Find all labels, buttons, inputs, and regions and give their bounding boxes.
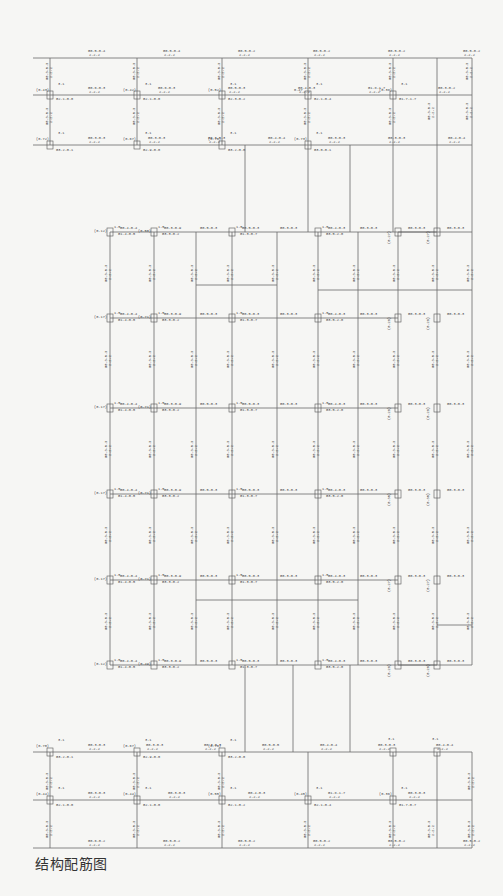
annotation-label: 2-2-2 [471,777,475,788]
annotation-label: (0.71) [138,577,151,581]
annotation-label: 3.1 [401,786,407,790]
annotation-label: G2.1-0.0 [56,803,73,807]
annotation-label: G2.1-0.0 [143,803,160,807]
annotation-label: 2-2-2 [470,269,474,280]
annotation-label: 2-2-2 [431,107,435,118]
annotation-label: (0.30) [426,493,430,506]
annotation-label: G0.5-0.3 [242,312,259,316]
annotation-label: G2.9-0.0 [143,148,160,152]
annotation-label: G1.4-0.5 [118,494,135,498]
annotation-label: 2-2-2 [389,843,400,847]
annotation-label: G1.3-0.7 [240,580,257,584]
annotation-label: 2-2-2 [108,355,112,366]
annotation-label: 2-2-2 [136,67,140,78]
annotation-label: 3.1 [316,786,322,790]
annotation-label: 2-2-2 [221,67,225,78]
annotation-label: 2-2-2 [464,843,475,847]
annotation-label: G0.3-0.3 [360,312,377,316]
annotation-label: 2-2-2 [108,531,112,542]
annotation-label: G3.5-2.0 [326,665,343,669]
annotation-label: 2-2-2 [230,355,234,366]
annotation-label: 2-2-2 [49,777,53,788]
annotation-label: 2-2-2 [136,112,140,123]
annotation-label: G0.3-0.3 [280,402,297,406]
annotation-label: 2-2-2 [269,140,280,144]
annotation-label: 2-2-2 [307,112,311,123]
annotation-label: G0.4-0.3 [328,402,345,406]
annotation-label: (0.71) [138,405,151,409]
annotation-label: G0.5-0.3 [200,402,217,406]
annotation-label: G0.4-0.4 [120,574,137,578]
annotation-label: G0.3-0.3 [360,488,377,492]
annotation-label: 2-2-2 [439,90,450,94]
annotation-label: 2-2-2 [471,825,475,836]
annotation-label: 2-2-2 [108,617,112,628]
annotation-label: 2-2-2 [316,445,320,456]
annotation-label: G0.3-0.9 [164,659,181,663]
annotation-label: G1.4-0.5 [118,580,135,584]
annotation-label: 3.1 [316,82,322,86]
annotation-label: 2-2-2 [275,269,279,280]
annotation-label: G3.3-0.2 [162,494,179,498]
annotation-label: G2.1-0.4 [314,97,331,101]
annotation-label: G3.5-2.0 [326,580,343,584]
annotation-label: G0.3-0.3 [447,312,464,316]
annotation-label: 2-2-2 [356,355,360,366]
annotation-label: 2-2-2 [149,140,160,144]
annotation-label: G0.3-0.3 [360,402,377,406]
annotation-label: 2-2-2 [194,269,198,280]
annotation-label: G0.3-0.3 [360,574,377,578]
annotation-label: (0.28) [387,664,391,677]
annotation-label: G0.5-0.3 [200,488,217,492]
annotation-label: 2-2-2 [194,445,198,456]
annotation-label: 2-2-2 [316,269,320,280]
annotation-label: 2-2-2 [321,747,332,751]
annotation-label: G0.3-0.3 [447,574,464,578]
annotation-label: 2-2-2 [49,112,53,123]
annotation-label: 0.47 [294,88,303,92]
annotation-label: (0.28) [426,407,430,420]
annotation-label: G0.3-0.3 [408,488,425,492]
annotation-label: G0.3-0.3 [408,574,425,578]
annotation-label: 2-2-2 [230,445,234,456]
annotation-label: G0.3-0.9 [164,226,181,230]
annotation-label: 2-2-2 [470,355,474,366]
annotation-label: 3.1 [230,738,236,742]
annotation-label: 2-2-2 [307,67,311,78]
annotation-label: 2-2-2 [275,445,279,456]
annotation-label: (0.45) [294,792,307,796]
annotation-label: 2-2-2 [316,617,320,628]
annotation-label: G1.4-0.5 [118,318,135,322]
annotation-label: 2-2-2 [152,445,156,456]
annotation-label: (0.42) [123,88,136,92]
annotation-label: G3.2-0.0 [228,148,245,152]
annotation-label: G0.3-0.9 [164,574,181,578]
annotation-label: G2.3-0.2 [228,97,245,101]
annotation-label: (0.17) [94,405,107,409]
annotation-label: (0.36) [379,792,392,796]
annotation-label: 2-2-2 [205,747,216,751]
annotation-label: (0.17) [94,491,107,495]
annotation-label: 2-2-2 [230,269,234,280]
annotation-label: G0.5-0.3 [242,574,259,578]
annotation-label: G1.4-0.5 [118,232,135,236]
annotation-label: 2-2-2 [435,531,439,542]
annotation-label: (0.27) [387,231,391,244]
annotation-label: 2-2-2 [89,53,100,57]
annotation-label: G3.5-2.0 [326,408,343,412]
annotation-label: 2-2-2 [435,355,439,366]
annotation-label: 2-2-2 [470,531,474,542]
annotation-label: G0.4-0.3 [328,488,345,492]
annotation-label: (0.12) [94,229,107,233]
annotation-label: 2-2-2 [389,53,400,57]
annotation-label: G0.3-0.3 [280,659,297,663]
annotation-label: (0.49) [138,662,151,666]
annotation-label: (0.27) [426,231,430,244]
annotation-label: 2-2-2 [89,140,100,144]
annotation-label: G2.1-0.0 [143,97,160,101]
annotation-label: (0.30) [387,493,391,506]
annotation-label: (0.28) [426,317,430,330]
annotation-label: (0.27) [426,579,430,592]
annotation-label: (0.73) [294,137,307,141]
annotation-label: G0.3-0.3 [447,402,464,406]
